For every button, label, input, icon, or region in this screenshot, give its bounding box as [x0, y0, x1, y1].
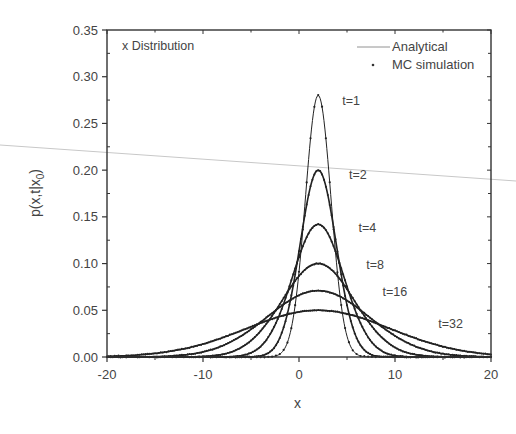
mc-point	[371, 354, 373, 356]
mc-point	[371, 326, 373, 328]
mc-point	[252, 351, 254, 353]
mc-point	[321, 290, 323, 292]
mc-point	[294, 273, 296, 275]
analytical-curve	[107, 170, 491, 357]
mc-point	[336, 275, 338, 277]
mc-point	[394, 346, 396, 348]
mc-point	[238, 336, 240, 338]
analytical-curve	[107, 310, 491, 356]
mc-point	[221, 336, 223, 338]
mc-point	[265, 320, 267, 322]
mc-point	[327, 194, 329, 196]
mc-point	[459, 354, 461, 356]
mc-point	[242, 345, 244, 347]
mc-point	[402, 339, 404, 341]
mc-point	[321, 106, 323, 108]
mc-point	[223, 336, 225, 338]
mc-point	[279, 315, 281, 317]
mc-point	[283, 303, 285, 305]
mc-point	[212, 340, 214, 342]
mc-point	[434, 352, 436, 354]
mc-point	[254, 350, 256, 352]
mc-point	[471, 351, 473, 353]
mc-point	[300, 250, 302, 252]
mc-point	[244, 332, 246, 334]
mc-point	[377, 323, 379, 325]
mc-point	[298, 295, 300, 297]
mc-point	[189, 347, 191, 349]
mc-point	[390, 353, 392, 355]
mc-point	[425, 349, 427, 351]
mc-point	[340, 273, 342, 275]
mc-point	[311, 309, 313, 311]
mc-point	[233, 350, 235, 352]
mc-point	[455, 354, 457, 356]
mc-point	[438, 352, 440, 354]
mc-point	[367, 319, 369, 321]
mc-point	[240, 335, 242, 337]
mc-point	[342, 273, 344, 275]
mc-point	[235, 349, 237, 351]
legend: Analytical MC simulation	[357, 39, 474, 72]
mc-point	[454, 348, 456, 350]
mc-point	[402, 350, 404, 352]
mc-point	[352, 297, 354, 299]
mc-point	[302, 245, 304, 247]
y-tick-label: 0.20	[73, 163, 98, 178]
analytical-curve	[107, 95, 491, 357]
mc-point	[413, 353, 415, 355]
mc-point	[304, 215, 306, 217]
mc-point	[331, 241, 333, 243]
mc-point	[298, 250, 300, 252]
mc-point	[398, 337, 400, 339]
mc-point	[190, 346, 192, 348]
mc-point	[227, 335, 229, 337]
mc-point	[285, 314, 287, 316]
mc-point	[258, 347, 260, 349]
mc-point	[354, 332, 356, 334]
mc-point	[406, 351, 408, 353]
mc-point	[198, 352, 200, 354]
mc-point	[277, 316, 279, 318]
mc-point	[281, 315, 283, 317]
mc-point	[436, 344, 438, 346]
mc-point	[304, 269, 306, 271]
mc-point	[262, 354, 264, 356]
mc-point	[290, 285, 292, 287]
mc-point	[265, 316, 267, 318]
analytical-curve	[107, 224, 491, 357]
mc-point	[373, 328, 375, 330]
mc-point	[417, 354, 419, 356]
mc-point	[417, 338, 419, 340]
mc-point	[346, 288, 348, 290]
mc-point	[208, 349, 210, 351]
mc-point	[302, 310, 304, 312]
mc-point	[396, 330, 398, 332]
mc-point	[336, 311, 338, 313]
mc-point	[342, 312, 344, 314]
curves	[106, 94, 492, 358]
mc-point	[315, 262, 317, 264]
mc-point	[300, 311, 302, 313]
mc-point	[367, 336, 369, 338]
mc-point	[248, 330, 250, 332]
mc-point	[275, 309, 277, 311]
mc-point	[319, 170, 321, 172]
plot-frame	[107, 30, 491, 357]
mc-point	[308, 310, 310, 312]
mc-point	[375, 322, 377, 324]
mc-point	[225, 343, 227, 345]
mc-point	[237, 348, 239, 350]
mc-point	[452, 354, 454, 356]
mc-point	[246, 327, 248, 329]
mc-point	[392, 333, 394, 335]
mc-point	[242, 354, 244, 356]
mc-point	[219, 345, 221, 347]
mc-point	[365, 333, 367, 335]
mc-point	[275, 322, 277, 324]
mc-point	[419, 354, 421, 356]
mc-point	[254, 324, 256, 326]
mc-point	[269, 351, 271, 353]
mc-point	[148, 353, 150, 355]
mc-point	[190, 353, 192, 355]
